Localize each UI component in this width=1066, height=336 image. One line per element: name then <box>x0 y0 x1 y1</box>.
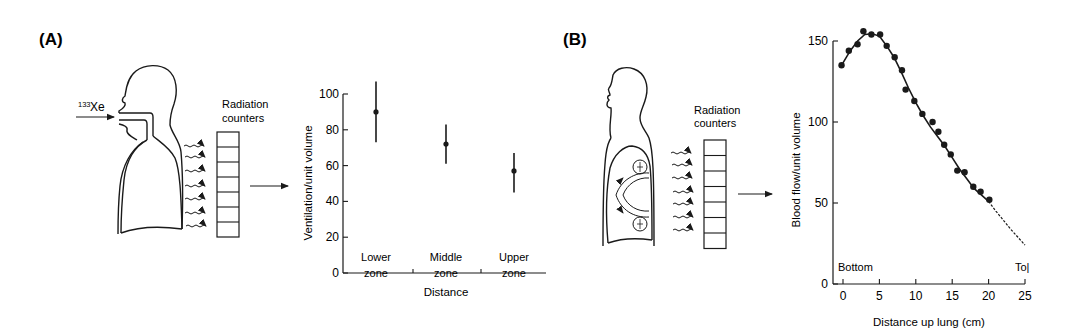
chart-b-xtick-label: 10 <box>909 289 923 303</box>
chart-b-data-point <box>838 62 844 68</box>
radiation-counters-label-b-line2: counters <box>694 117 737 129</box>
chart-b-ytick-label: 0 <box>821 277 828 291</box>
chart-b-data-point <box>902 86 908 92</box>
chart-b-data-point <box>954 167 960 173</box>
body-silhouette-b-icon <box>603 68 654 246</box>
chart-a-category-label: zone <box>364 267 388 279</box>
body-silhouette-a-icon <box>118 66 183 234</box>
chart-b-data-point <box>970 184 976 190</box>
chart-a-data-point <box>511 168 516 173</box>
figure-canvas: (A) 133 Xe Radiation counters 02040608 <box>0 0 1066 336</box>
chart-b-data-point <box>941 141 947 147</box>
chart-a-category-label: zone <box>502 267 526 279</box>
chart-b-annotation-bottom: Bottom <box>838 261 873 273</box>
chart-b-xtick-label: 5 <box>876 289 883 303</box>
xenon-tracer-label: 133 Xe <box>78 100 105 114</box>
chart-b-xtick-label: 20 <box>982 289 996 303</box>
chart-b-fit-curve <box>842 34 989 202</box>
pulmonary-circulation-icon <box>616 160 649 231</box>
tracer-element: Xe <box>90 100 105 114</box>
chart-a-category-label: Lower <box>361 251 391 263</box>
tracer-isotope-number: 133 <box>78 100 91 109</box>
chart-b-data-point <box>899 67 905 73</box>
chart-b-ytick-label: 100 <box>808 115 828 129</box>
panel-b-label: (B) <box>563 30 587 49</box>
chart-b-xlabel: Distance up lung (cm) <box>873 316 985 328</box>
radiation-counters-label-a-line2: counters <box>222 112 265 124</box>
chart-a-ytick-label: 0 <box>332 266 339 280</box>
radiation-emission-arrows-a <box>184 145 206 227</box>
chart-b-data-point <box>961 169 967 175</box>
radiation-emission-arrows-b <box>671 152 693 231</box>
chart-a-category-label: zone <box>434 267 458 279</box>
chart-b-data-point <box>846 48 852 54</box>
chart-b-data-point <box>877 31 883 37</box>
chart-b-xtick-label: 25 <box>1018 289 1032 303</box>
chart-a-ytick-label: 40 <box>326 194 340 208</box>
chart-a-category-label: Upper <box>499 251 529 263</box>
panel-a-label: (A) <box>39 30 63 49</box>
chart-b-data-point <box>986 197 992 203</box>
chart-a-ytick-label: 60 <box>326 159 340 173</box>
chart-a-data-point <box>443 142 448 147</box>
chart-b-data-point <box>948 151 954 157</box>
chart-a-category-label: Middle <box>430 251 462 263</box>
chart-b-data-point <box>883 43 889 49</box>
chart-a-ventilation: 020406080100LowerzoneMiddlezoneUpperzone… <box>302 81 546 298</box>
chart-b-data-point <box>868 31 874 37</box>
chart-b-data-point <box>911 98 917 104</box>
chart-b-fit-curve-extrapolated <box>989 201 1025 245</box>
radiation-counter-stack-a <box>217 132 239 237</box>
chart-b-data-point <box>977 188 983 194</box>
chart-b-data-point <box>929 119 935 125</box>
chart-a-ytick-label: 80 <box>326 123 340 137</box>
radiation-counters-label-a-line1: Radiation <box>222 98 268 110</box>
radiation-counters-label-b-line1: Radiation <box>694 104 740 116</box>
chart-a-xlabel: Distance <box>424 286 469 298</box>
chart-b-annotation-top: To| <box>1015 261 1029 273</box>
chart-a-ytick-label: 20 <box>326 230 340 244</box>
radiation-counter-stack-b <box>704 140 726 249</box>
chart-b-xtick-label: 0 <box>840 289 847 303</box>
chart-b-data-point <box>891 54 897 60</box>
chart-a-ylabel: Ventilation/unit volume <box>302 125 314 240</box>
chart-b-ylabel: Blood flow/unit volume <box>790 112 802 227</box>
chart-b-xtick-label: 15 <box>946 289 960 303</box>
chart-a-ytick-label: 100 <box>319 87 339 101</box>
chart-b-data-point <box>935 129 941 135</box>
chart-b-data-point <box>860 28 866 34</box>
chart-b-data-point <box>919 111 925 117</box>
chart-b-blood-flow: 0501001500510152025BottomTo|Distance up … <box>790 28 1032 328</box>
chart-b-data-point <box>854 41 860 47</box>
chart-a-data-point <box>373 109 378 114</box>
chart-b-ytick-label: 50 <box>815 196 829 210</box>
chart-b-ytick-label: 150 <box>808 34 828 48</box>
